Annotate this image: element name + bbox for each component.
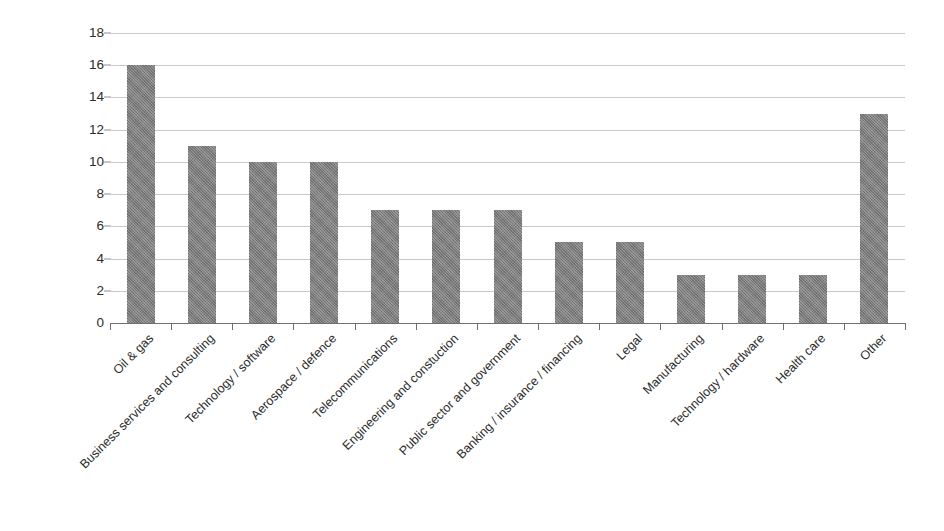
- x-axis-tick-mark: [844, 323, 845, 330]
- x-axis-tick-mark: [783, 323, 784, 330]
- bar: [677, 275, 705, 323]
- bar: [249, 162, 277, 323]
- x-axis-tick-label: Other: [858, 332, 889, 363]
- bar-chart: 024681012141618 Oil & gasBusiness servic…: [0, 0, 944, 531]
- x-axis-tick-label: Telecommunications: [311, 332, 400, 421]
- gridline: [110, 162, 905, 163]
- gridline: [110, 194, 905, 195]
- y-axis-tick-label: 8: [70, 187, 104, 201]
- x-axis-tick-mark: [660, 323, 661, 330]
- y-axis-tick-label: 16: [70, 58, 104, 72]
- gridline: [110, 130, 905, 131]
- y-axis-tick-label: 6: [70, 220, 104, 234]
- bar: [188, 146, 216, 323]
- x-axis-tick-label: Engineering and constuction: [341, 332, 461, 452]
- x-axis-tick-label: Public sector and government: [397, 332, 523, 458]
- bar: [799, 275, 827, 323]
- bar: [494, 210, 522, 323]
- y-axis-tick-label: 10: [70, 155, 104, 169]
- y-axis-tick-label: 4: [70, 252, 104, 266]
- bar: [738, 275, 766, 323]
- x-axis-tick-label: Manufacturing: [641, 332, 706, 397]
- gridline: [110, 97, 905, 98]
- bar: [127, 65, 155, 323]
- gridline: [110, 65, 905, 66]
- y-axis-tick-label: 14: [70, 91, 104, 105]
- y-axis-tick-label: 12: [70, 123, 104, 137]
- x-axis-tick-mark: [905, 323, 906, 330]
- bar: [432, 210, 460, 323]
- bar: [860, 114, 888, 323]
- x-axis-tick-label: Oil & gas: [111, 332, 156, 377]
- x-axis-tick-mark: [477, 323, 478, 330]
- x-axis-tick-label: Aerospace / defence: [249, 332, 339, 422]
- x-axis-tick-mark: [599, 323, 600, 330]
- bar: [310, 162, 338, 323]
- x-axis-tick-label: Technology / hardware: [669, 332, 767, 430]
- plot-area: [110, 33, 905, 323]
- x-axis-tick-label: Business services and consulting: [78, 332, 217, 471]
- y-axis-tick-label: 0: [70, 316, 104, 330]
- x-axis-line: [110, 323, 906, 324]
- x-axis-tick-mark: [416, 323, 417, 330]
- y-axis-tick-label: 2: [70, 284, 104, 298]
- x-axis-tick-mark: [171, 323, 172, 330]
- x-axis-tick-mark: [110, 323, 111, 330]
- x-axis-tick-mark: [355, 323, 356, 330]
- gridline: [110, 33, 905, 34]
- x-axis-tick-label: Banking / insurance / financing: [454, 332, 583, 461]
- bar: [555, 242, 583, 323]
- x-axis-tick-mark: [722, 323, 723, 330]
- bar: [371, 210, 399, 323]
- x-axis-tick-mark: [232, 323, 233, 330]
- x-axis-tick-label: Legal: [614, 332, 644, 362]
- x-axis-tick-mark: [293, 323, 294, 330]
- y-axis-tick-label: 18: [70, 26, 104, 40]
- x-axis-tick-label: Technology / software: [183, 332, 277, 426]
- y-axis-tick-labels: 024681012141618: [66, 33, 104, 323]
- bar: [616, 242, 644, 323]
- x-axis-tick-mark: [538, 323, 539, 330]
- x-axis-tick-label: Health care: [774, 332, 828, 386]
